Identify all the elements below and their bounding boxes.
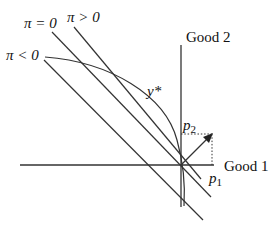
label-p1: p1 xyxy=(208,170,222,188)
isoprofit-line-negative xyxy=(44,60,203,220)
label-pi-zero: π = 0 xyxy=(24,15,57,31)
label-good1: Good 1 xyxy=(224,158,269,174)
label-good2: Good 2 xyxy=(186,29,231,45)
label-pi-positive: π > 0 xyxy=(67,9,100,25)
label-y-star: y* xyxy=(145,83,162,99)
label-pi-negative: π < 0 xyxy=(6,47,39,63)
label-p2: p2 xyxy=(182,117,196,135)
price-vector-arrow xyxy=(181,137,209,165)
profit-diagram: π > 0 π = 0 π < 0 y* Good 2 Good 1 p2 p1 xyxy=(0,0,274,228)
isoprofit-line-positive xyxy=(74,27,201,179)
isoprofit-line-zero xyxy=(52,32,211,197)
